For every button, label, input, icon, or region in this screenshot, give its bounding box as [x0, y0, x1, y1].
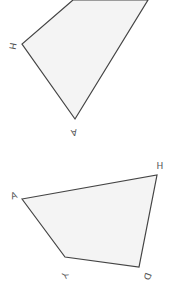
top-quadrilateral	[22, 0, 148, 119]
vertex-label-h: H	[7, 42, 18, 50]
diagram-canvas: HAAHYD	[0, 0, 177, 299]
bottom-quadrilateral	[22, 175, 157, 267]
vertex-label-y: Y	[58, 270, 70, 281]
vertex-label-d: D	[142, 271, 154, 281]
vertex-label-a: A	[9, 189, 19, 201]
vertex-label-a: A	[69, 127, 78, 138]
vertex-label-h: H	[157, 161, 164, 171]
